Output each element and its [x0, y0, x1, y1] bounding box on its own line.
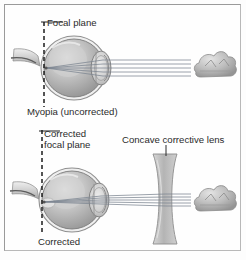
- optic-nerve-bottom: [10, 182, 39, 199]
- panel-uncorrected: [11, 22, 236, 107]
- label-myopia-uncorrected: Myopia (uncorrected): [27, 106, 118, 117]
- optic-nerve-top: [11, 49, 40, 66]
- distant-object-top: [194, 52, 236, 77]
- label-corrected-focal-plane: Correctedfocal plane: [44, 128, 90, 150]
- focal-point-corrected: [42, 200, 45, 203]
- diagram-artwork: [0, 0, 246, 260]
- label-focal-plane: Focal plane: [47, 17, 97, 28]
- label-corrected-focal-plane-line2: focal plane: [44, 139, 90, 150]
- distant-object-bottom: [194, 186, 236, 211]
- focal-point-uncorrected: [44, 66, 47, 69]
- label-corrected: Corrected: [38, 236, 80, 247]
- label-corrected-focal-plane-line1: Corrected: [44, 128, 86, 139]
- label-concave-corrective-lens: Concave corrective lens: [122, 134, 224, 145]
- myopia-diagram-figure: Focal plane Myopia (uncorrected) Correct…: [0, 0, 246, 260]
- concave-corrective-lens: [153, 154, 177, 244]
